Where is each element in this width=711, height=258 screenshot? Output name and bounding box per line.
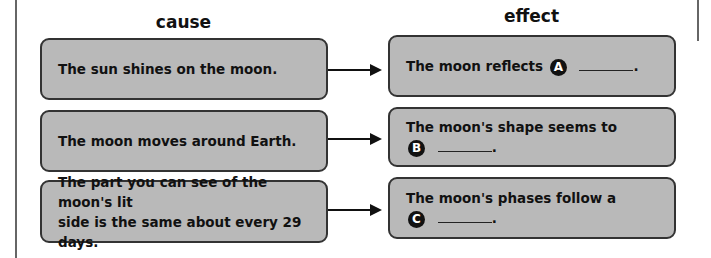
cause-box-3: The part you can see of the moon's lit s… xyxy=(40,180,328,243)
effect-box-1: The moon reflects A . xyxy=(388,35,676,97)
marker-a-icon: A xyxy=(550,59,567,76)
marker-b-icon: B xyxy=(408,140,425,157)
cause-text-2: The moon moves around Earth. xyxy=(58,131,296,151)
cause-box-2: The moon moves around Earth. xyxy=(40,110,328,172)
effect-box-2: The moon's shape seems to B . xyxy=(388,107,676,167)
arrow-3 xyxy=(328,209,380,211)
cause-box-1: The sun shines on the moon. xyxy=(40,38,328,100)
cause-text-1: The sun shines on the moon. xyxy=(58,59,277,79)
effect-text-2: The moon's shape seems to B . xyxy=(406,117,617,157)
cause-text-3: The part you can see of the moon's lit s… xyxy=(58,172,310,252)
page-border-left xyxy=(15,0,17,258)
answer-blank-c[interactable] xyxy=(438,210,492,223)
arrow-1 xyxy=(328,69,380,71)
page-border-right xyxy=(697,0,699,41)
effect-box-3: The moon's phases follow a C . xyxy=(388,177,676,239)
answer-blank-b[interactable] xyxy=(438,139,492,152)
effect-text-3: The moon's phases follow a C . xyxy=(406,188,616,228)
marker-c-icon: C xyxy=(408,211,425,228)
effect-text-1: The moon reflects A . xyxy=(406,56,639,76)
arrow-2 xyxy=(328,138,380,140)
cause-heading: cause xyxy=(40,12,327,32)
answer-blank-a[interactable] xyxy=(579,58,633,71)
effect-heading: effect xyxy=(388,6,675,26)
